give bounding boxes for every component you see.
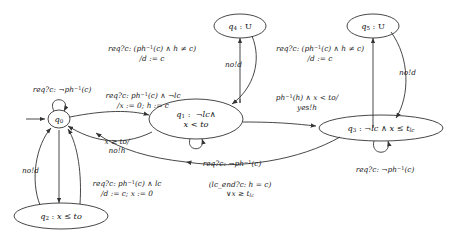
state-label-q0: q0: [55, 114, 64, 124]
state-label-q3: q3 : ¬lc ∧ x ≤ tlc: [348, 123, 415, 133]
edge-label-q5-q1: no!d: [399, 68, 416, 77]
edge-q1-q3: [243, 122, 316, 126]
edge-q0-self: [52, 100, 65, 111]
state-label-q1: q1 : ¬lc∧x < to: [176, 109, 215, 129]
edge-q0-q1: [70, 111, 149, 117]
edge-label-q0-q1: req?c: ph−1(c) ∧ ¬lc/x := 0; h := c: [105, 90, 180, 110]
edge-label-q1-q3: ph−1(h) ∧ x < to/yes!h: [276, 92, 339, 112]
state-label-q2: q2 : x ≤ to: [40, 211, 82, 221]
state-label-q5: q5 : U: [361, 21, 385, 31]
edge-label-q0-q2: req?c: ph−1(c) ∧ lc/d := c; x := 0: [92, 178, 161, 198]
state-machine-diagram: q0 q1 : ¬lc∧x < to q2 : x ≤ to q3 : ¬lc …: [0, 0, 470, 244]
edge-q1-self: [189, 139, 202, 149]
edge-label-q3-q1: (lc_end?c: h = c)∨x ≥ tlc: [209, 180, 272, 201]
edge-label-q2-q0: no!d: [22, 166, 39, 175]
edge-label-q4-q0: no!d: [225, 60, 242, 69]
edge-q4-q1: [232, 36, 256, 104]
edge-label-q0-self: req?c: ¬ph−1(c): [33, 84, 92, 95]
state-label-q4: q4 : U: [228, 21, 252, 31]
edge-label-q1-self: req?c: ¬ph−1(c): [203, 158, 262, 169]
edge-q2-q0-right: [68, 129, 81, 204]
edge-q3-self: [374, 141, 389, 152]
edge-label-q1-q5: req?c: (ph−1(c) ∧ h ≠ c)/d := c: [276, 43, 364, 63]
edge-label-q0-q4: req?c: (ph−1(c) ∧ h ≠ c)/d := c: [108, 43, 196, 63]
edge-label-q3-self: req?c: ¬ph−1(c): [356, 164, 415, 175]
edge-label-q1-q0: x ≥ to/no!h: [105, 137, 130, 156]
